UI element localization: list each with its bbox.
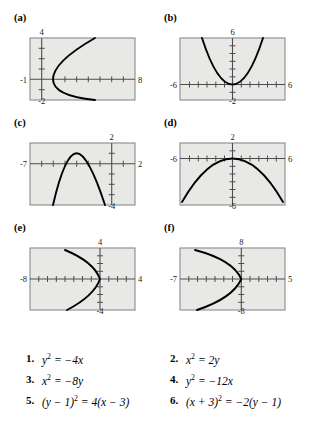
- equation-6-text: (x + 3)2 = −2(y − 1): [186, 394, 281, 408]
- panel-d-label: (d): [164, 117, 313, 128]
- label-f-right: 5: [288, 274, 292, 284]
- panel-d: (d): [162, 117, 313, 209]
- label-c-top: 2: [110, 132, 114, 142]
- equation-5-text: (y − 1)2 = 4(x − 3): [42, 394, 129, 408]
- panel-b: (b): [162, 12, 313, 104]
- label-a-bottom: -2: [38, 96, 45, 104]
- label-f-left: -7: [170, 274, 177, 284]
- equation-list: 1. y2 = −4x 2. x2 = 2y 3. x2 = −8y 4. y2…: [0, 352, 313, 415]
- label-e-bottom: -4: [96, 306, 104, 314]
- label-b-left: -6: [170, 80, 177, 90]
- plot-area-a: [30, 38, 135, 100]
- label-c-left: -7: [20, 159, 27, 169]
- label-a-top: 4: [40, 27, 45, 37]
- label-d-top: 2: [230, 132, 234, 142]
- label-c-right: 2: [138, 159, 142, 169]
- panel-e-label: (e): [14, 222, 168, 233]
- equation-4-number: 4.: [170, 373, 178, 385]
- equation-3-number: 3.: [26, 373, 34, 385]
- equation-row-3: 5. (y − 1)2 = 4(x − 3) 6. (x + 3)2 = −2(…: [0, 394, 313, 415]
- label-f-bottom: -8: [238, 306, 245, 314]
- label-c-bottom: -4: [108, 201, 116, 209]
- label-a-right: 8: [138, 75, 142, 85]
- equation-1-text: y2 = −4x: [42, 352, 83, 366]
- label-d-bottom: -6: [229, 201, 236, 209]
- plot-area-c: [30, 143, 135, 205]
- equation-2-number: 2.: [170, 352, 178, 364]
- panel-c-label: (c): [14, 117, 168, 128]
- panel-f-label: (f): [164, 222, 313, 233]
- panel-e-plot: -8 4 4 -4: [17, 236, 157, 314]
- panel-a: (a) -1 8: [12, 12, 168, 104]
- equation-row-2: 3. x2 = −8y 4. y2 = −12x: [0, 373, 313, 394]
- panel-e-svg: -8 4 4 -4: [17, 236, 157, 314]
- equation-4-text: y2 = −12x: [186, 373, 233, 387]
- equation-5-number: 5.: [26, 394, 34, 406]
- equation-row-1: 1. y2 = −4x 2. x2 = 2y: [0, 352, 313, 373]
- label-b-right: 6: [288, 80, 292, 90]
- equation-2-text: x2 = 2y: [186, 352, 219, 366]
- equation-1-number: 1.: [26, 352, 34, 364]
- label-e-right: 4: [138, 274, 143, 284]
- panel-c: (c) -7 2: [12, 117, 168, 209]
- panel-b-svg: -6 6 6 -2: [167, 26, 307, 104]
- panel-f-plot: -7 5 8 -8: [167, 236, 307, 314]
- panel-d-svg: -6 6 2 -6: [167, 131, 307, 209]
- panel-a-plot: -1 8 4 -2: [17, 26, 157, 104]
- label-d-left: -6: [170, 154, 177, 164]
- label-e-left: -8: [20, 274, 27, 284]
- label-b-top: 6: [230, 27, 234, 37]
- equation-6-number: 6.: [170, 394, 178, 406]
- equation-3-text: x2 = −8y: [42, 373, 83, 387]
- panel-c-svg: -7 2 2 -4: [17, 131, 157, 209]
- label-d-right: 6: [288, 154, 292, 164]
- label-f-top: 8: [239, 237, 243, 247]
- panel-f-svg: -7 5 8 -8: [167, 236, 307, 314]
- panel-f: (f): [162, 222, 313, 314]
- panel-c-plot: -7 2 2 -4: [17, 131, 157, 209]
- panel-e: (e): [12, 222, 168, 314]
- panel-d-plot: -6 6 2 -6: [167, 131, 307, 209]
- panel-a-svg: -1 8 4 -2: [17, 26, 157, 104]
- label-a-left: -1: [20, 75, 27, 85]
- panel-a-label: (a): [14, 12, 168, 23]
- panel-b-label: (b): [164, 12, 313, 23]
- label-b-bottom: -2: [229, 96, 236, 104]
- panel-b-plot: -6 6 6 -2: [167, 26, 307, 104]
- label-e-top: 4: [98, 237, 103, 247]
